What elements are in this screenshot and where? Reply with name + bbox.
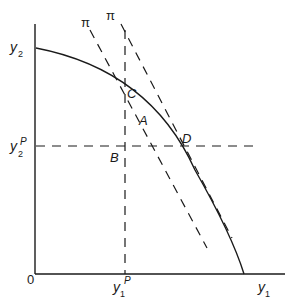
- point-c-label: C: [127, 86, 137, 101]
- price-line-2-label: π: [106, 8, 115, 23]
- ppf-diagram: 0 y 1 y 2 y 2 P y 1 P π π C A B D: [0, 0, 296, 308]
- y-axis-label-sub: 2: [18, 49, 23, 59]
- point-d-label: D: [182, 131, 191, 146]
- x-axis-label-sub: 1: [265, 289, 270, 299]
- y2p-label-sup: P: [20, 136, 27, 147]
- y1p-label-sub: 1: [120, 289, 125, 299]
- point-a-label: A: [138, 113, 148, 128]
- y1p-label-sup: P: [124, 275, 131, 286]
- y2p-label-sub: 2: [18, 149, 23, 159]
- price-line-2: [121, 24, 232, 238]
- y-axis-label: y: [9, 39, 18, 55]
- production-frontier-curve: [36, 48, 244, 274]
- point-b-label: B: [110, 150, 119, 165]
- price-line-1-label: π: [81, 15, 90, 30]
- y2p-label: y: [9, 138, 18, 154]
- origin-label: 0: [27, 272, 34, 287]
